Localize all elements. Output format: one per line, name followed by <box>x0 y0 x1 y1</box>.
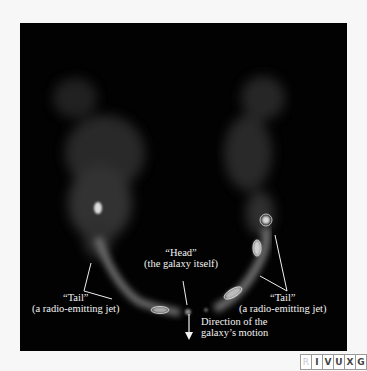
band-g: G <box>356 355 366 369</box>
radio-galaxy-image: “Head” (the galaxy itself) “Tail” (a rad… <box>20 23 347 351</box>
down-arrow-icon <box>184 314 194 340</box>
band-u: U <box>334 355 345 369</box>
head-callout-line <box>183 281 187 305</box>
motion-label-line1: Direction of the <box>201 316 268 327</box>
head-label-subtitle: (the galaxy itself) <box>144 258 218 269</box>
spectrum-badge: R I V U X G <box>300 354 367 370</box>
tail-right-label: “Tail” (a radio-emitting jet) <box>239 292 326 314</box>
band-v: V <box>323 355 334 369</box>
tail-left-label: “Tail” (a radio-emitting jet) <box>32 292 119 314</box>
motion-label-line2: galaxy’s motion <box>201 327 268 338</box>
band-x: X <box>345 355 356 369</box>
head-label-title: “Head” <box>144 247 218 258</box>
head-label: “Head” (the galaxy itself) <box>144 247 218 269</box>
tail-right-subtitle: (a radio-emitting jet) <box>239 303 326 314</box>
band-i: I <box>312 355 323 369</box>
motion-label: Direction of the galaxy’s motion <box>201 316 268 338</box>
tail-left-title: “Tail” <box>32 292 119 303</box>
tail-right-title: “Tail” <box>239 292 326 303</box>
band-r: R <box>301 355 312 369</box>
tail-left-subtitle: (a radio-emitting jet) <box>32 303 119 314</box>
